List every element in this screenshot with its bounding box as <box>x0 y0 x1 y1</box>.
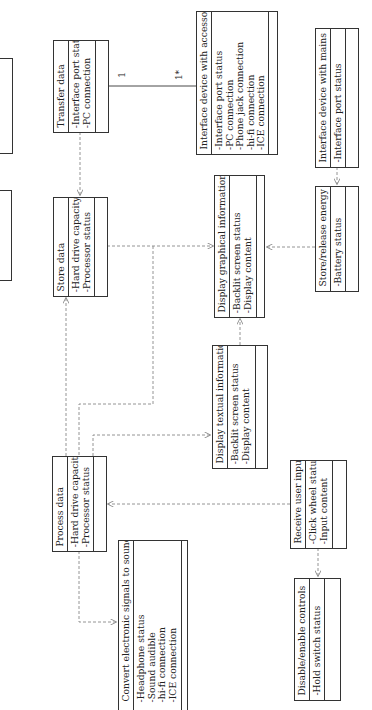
class-box-store-data[interactable]: Store data -Hard drive capacity -Process… <box>53 197 108 297</box>
class-box-partial-b <box>0 190 12 281</box>
multiplicity-to: 1* <box>174 70 184 80</box>
class-title: Convert electronic signals to sound <box>121 541 132 702</box>
attribute: -Battery status <box>333 218 344 287</box>
attribute: -Interface port status <box>214 42 225 150</box>
attribute: -Hard drive capacity <box>70 457 81 547</box>
class-box-interface-accessories[interactable]: Interface device with accessories -Inter… <box>196 11 278 155</box>
class-box-transfer-data[interactable]: Transfer data -Interface port status -PC… <box>53 40 109 133</box>
class-title: Store data <box>56 243 67 292</box>
multiplicity-from: 1 <box>117 72 127 78</box>
attribute: -Hard drive capacity <box>71 198 82 292</box>
class-box-process-data[interactable]: Process data -Hard drive capacity -Proce… <box>52 456 107 552</box>
class-title: Transfer data <box>56 65 67 128</box>
class-box-display-textual[interactable]: Display textual information -Backlit scr… <box>212 345 268 469</box>
class-title: Disable/enable controls <box>297 586 308 696</box>
attribute: -Interface port status <box>333 64 344 163</box>
attribute: -Processor status <box>81 457 92 547</box>
attribute: -Hold switch status <box>312 606 323 696</box>
class-box-display-graphical[interactable]: Display graphical information -Backlit s… <box>214 175 265 318</box>
attribute: -Display content <box>241 363 252 464</box>
attribute: -ICE connection <box>256 42 267 150</box>
attribute: -Display content <box>243 212 254 313</box>
class-title: Store/release energy <box>318 190 329 287</box>
attribute: -Processor status <box>82 198 93 292</box>
class-box-store-energy[interactable]: Store/release energy -Battery status <box>315 186 359 292</box>
class-title: Process data <box>55 487 66 547</box>
class-title: Interface device with mains <box>318 34 329 164</box>
class-title: Display graphical information <box>217 176 228 313</box>
attribute: -Interface port status <box>71 41 82 128</box>
class-box-interface-mains[interactable]: Interface device with mains -Interface p… <box>315 28 359 168</box>
class-box-convert-sound[interactable]: Convert electronic signals to sound -Hea… <box>118 540 188 710</box>
link-process-sound <box>79 551 116 622</box>
link-process-textual <box>93 435 210 456</box>
attribute: -Click wheel status <box>308 461 319 544</box>
class-box-disable-controls[interactable]: Disable/enable controls -Hold switch sta… <box>294 578 341 701</box>
class-title: Interface device with accessories <box>199 12 210 150</box>
attribute: -Input content <box>319 461 330 544</box>
class-box-receive-input[interactable]: Receive user input -Click wheel status -… <box>290 460 347 549</box>
attribute: -Backlit screen status <box>230 363 241 464</box>
attribute: -Backlit screen status <box>232 212 243 313</box>
attribute: -Headphone status <box>136 614 147 702</box>
attribute: -ICE connection <box>168 614 179 702</box>
attribute: -PC connection <box>82 41 93 128</box>
class-title: Receive user input <box>293 461 304 544</box>
class-box-partial-a <box>0 58 13 154</box>
class-title: Display textual information <box>215 346 226 464</box>
